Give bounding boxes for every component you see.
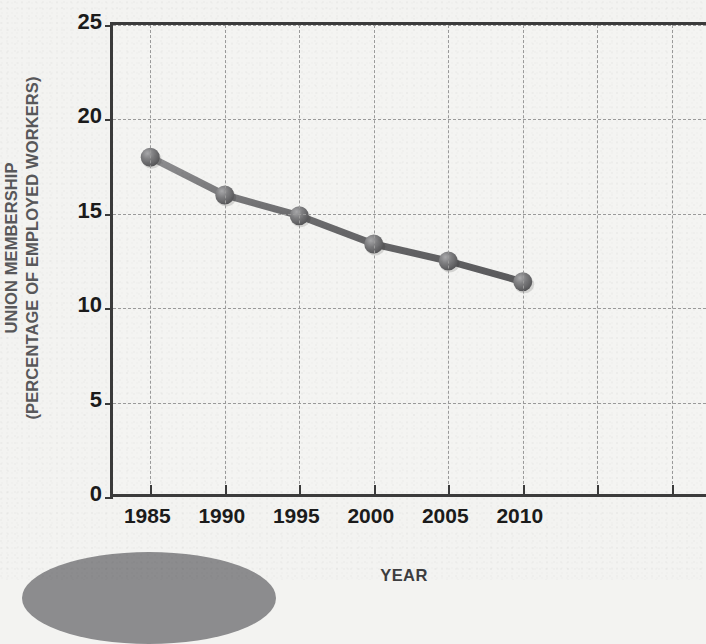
x-axis-tick-mark (448, 485, 450, 495)
gridline-vertical (299, 25, 300, 494)
y-axis-tick-label: 5 (56, 389, 102, 411)
x-axis-tick-labels: 198519901995200020052010 (0, 505, 706, 535)
gridline-vertical (597, 25, 598, 494)
x-axis-tick-label: 1985 (107, 505, 187, 526)
y-axis-tick-label: 25 (56, 11, 102, 33)
y-axis-tick-mark (105, 214, 113, 216)
y-axis-title: UNION MEMBERSHIP (PERCENTAGE OF EMPLOYED… (1, 13, 43, 483)
x-axis-tick-label: 2000 (331, 505, 411, 526)
x-axis-tick-label: 1990 (182, 505, 262, 526)
gridline-vertical (672, 25, 673, 494)
gridline-vertical (523, 25, 524, 494)
y-axis-tick-mark (105, 25, 113, 27)
y-axis-tick-labels: 0510152025 (56, 0, 102, 580)
gridline-horizontal (113, 25, 706, 26)
gridline-vertical (448, 25, 449, 494)
data-series-layer (113, 25, 706, 497)
y-axis-title-line-2: (PERCENTAGE OF EMPLOYED WORKERS) (22, 13, 43, 483)
y-axis-tick-mark (105, 119, 113, 121)
x-axis-tick-label: 2010 (480, 505, 560, 526)
y-axis-title-line-1: UNION MEMBERSHIP (1, 13, 22, 483)
x-axis-title: YEAR (344, 566, 464, 585)
x-axis-tick-mark (672, 485, 674, 495)
y-axis-tick-mark (105, 497, 113, 499)
y-axis-tick-mark (105, 403, 113, 405)
x-axis-tick-mark (597, 485, 599, 495)
x-axis-tick-label: 2005 (405, 505, 485, 526)
x-axis-tick-mark (299, 485, 301, 495)
plot-inner (113, 25, 706, 494)
gridline-horizontal (113, 403, 706, 404)
x-axis-tick-mark (150, 485, 152, 495)
x-axis-tick-mark (523, 485, 525, 495)
gridline-horizontal (113, 214, 706, 215)
x-axis-tick-mark (225, 485, 227, 495)
y-axis-tick-label: 0 (56, 483, 102, 505)
gridline-horizontal (113, 308, 706, 309)
gridline-vertical (150, 25, 151, 494)
x-axis-tick-mark (374, 485, 376, 495)
y-axis-tick-mark (105, 308, 113, 310)
plot-area (110, 22, 706, 497)
y-axis-tick-label: 10 (56, 294, 102, 316)
y-axis-tick-label: 15 (56, 200, 102, 222)
gridline-horizontal (113, 119, 706, 120)
gridline-vertical (225, 25, 226, 494)
decorative-ellipse (22, 552, 276, 644)
gridline-vertical (374, 25, 375, 494)
y-axis-tick-label: 20 (56, 105, 102, 127)
series-line (150, 157, 523, 282)
x-axis-tick-label: 1995 (256, 505, 336, 526)
